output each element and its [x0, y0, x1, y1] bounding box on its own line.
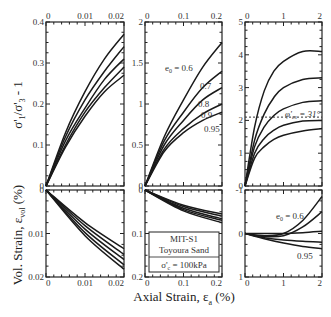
y-tick-label: 2: [239, 115, 244, 125]
y-tick-label: 5: [239, 17, 244, 27]
x-tick-label: 0: [245, 278, 250, 288]
y-tick-label: 0.2: [33, 99, 44, 109]
figure: 00.010.0200.10.20.30.400.10.200.511.5201…: [0, 0, 331, 317]
y-tick-label: 0.5: [132, 140, 144, 150]
y-tick-label: 1: [239, 148, 244, 158]
y-tick-label: 1.5: [132, 58, 144, 68]
svg-text:0.8: 0.8: [198, 99, 210, 109]
curve-e00.6: [46, 190, 124, 249]
x-tick-label: 0: [145, 278, 150, 288]
y-tick-label: 0.3: [33, 58, 45, 68]
curve-e00.8: [245, 231, 322, 233]
legend-box: MIT-S1 Toyoura Sand σ'c = 100kPa: [149, 232, 219, 272]
curve-e00.8: [46, 59, 124, 186]
svg-text:0.95: 0.95: [204, 124, 220, 134]
y-tick-label: 0.1: [132, 229, 143, 239]
y-tick-label: 0: [40, 185, 45, 195]
y-tick-label: 3: [239, 83, 244, 93]
x-tick-label: 0.1: [178, 11, 189, 21]
x-tick-label: 0.01: [77, 278, 93, 288]
panel-top-right: 012012345: [239, 11, 323, 191]
y-tick-label: 4: [239, 50, 244, 60]
x-tick-label: 2: [318, 278, 323, 288]
x-tick-label: 0.02: [108, 278, 124, 288]
panel-top-left: 00.010.0200.10.20.30.4: [33, 11, 124, 191]
x-tick-label: 1: [281, 278, 286, 288]
svg-text:0.7: 0.7: [200, 81, 212, 91]
x-tick-label: 0.02: [108, 11, 124, 21]
y-tick-label: 0: [239, 229, 244, 239]
y-tick-label: 0: [139, 185, 144, 195]
xlabel: Axial Strain, εa (%): [133, 289, 234, 307]
x-tick-label: 2: [318, 11, 323, 21]
x-tick-label: 0.1: [178, 278, 189, 288]
y-tick-label: 0.02: [28, 272, 44, 282]
y-tick-label: 2: [139, 17, 144, 27]
x-tick-label: 0.2: [211, 11, 222, 21]
svg-text:0.95: 0.95: [297, 251, 313, 261]
ylabel-bottom: Vol. Strain, εvol (%): [10, 185, 27, 285]
x-tick-label: 0.01: [77, 11, 93, 21]
panel-bottom-right: 012-101: [236, 185, 323, 288]
x-tick-label: 0.2: [211, 278, 222, 288]
y-tick-label: 0.01: [28, 229, 44, 239]
x-tick-label: 1: [281, 11, 286, 21]
e0-labels-mid: e0 = 0.6 0.7 0.8 0.9 0.95: [165, 63, 220, 134]
svg-text:e0 = 0.6: e0 = 0.6: [276, 211, 304, 222]
y-tick-label: 0.4: [33, 17, 45, 27]
curve-e00.95: [245, 129, 322, 186]
svg-text:Toyoura Sand: Toyoura Sand: [159, 245, 210, 255]
svg-text:e0 = 0.6: e0 = 0.6: [165, 63, 193, 74]
phi-annotation: φ'cs = 31°: [285, 109, 320, 120]
y-tick-label: 0.1: [33, 140, 44, 150]
y-tick-label: 1: [139, 99, 144, 109]
curve-e00.8: [145, 88, 222, 186]
y-tick-label: 1: [239, 272, 244, 282]
x-tick-label: 0: [46, 11, 51, 21]
ylabel-top: σ'1/σ'3 - 1: [10, 81, 27, 129]
svg-text:MIT-S1: MIT-S1: [170, 234, 198, 244]
svg-text:0.9: 0.9: [201, 110, 213, 120]
x-tick-label: 0: [245, 11, 250, 21]
panel-bottom-left: 00.010.0200.010.02: [28, 185, 124, 288]
curve-e00.7: [245, 78, 322, 186]
y-tick-label: 0.2: [132, 272, 143, 282]
x-tick-label: 0: [46, 278, 51, 288]
svg-text:φ'cs = 31°: φ'cs = 31°: [285, 109, 320, 120]
y-tick-label: -1: [236, 185, 244, 195]
x-tick-label: 0: [145, 11, 150, 21]
